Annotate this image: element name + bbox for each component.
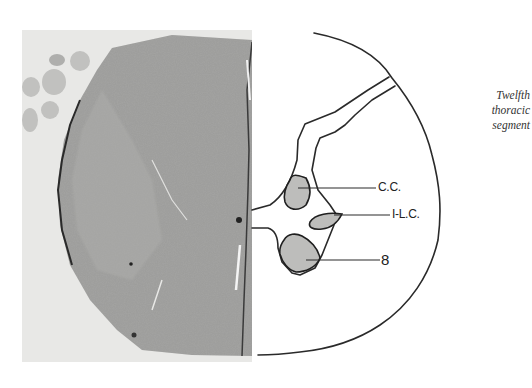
spinal-cord-diagram (250, 0, 460, 388)
label-8: 8 (381, 252, 389, 267)
spinal-cord-photomicrograph (22, 30, 252, 362)
label-ilc: I-L.C. (392, 208, 420, 220)
ilc-nucleus (310, 213, 343, 229)
caption-line: Twelfth (462, 88, 530, 103)
cc-nucleus (284, 175, 309, 209)
label-cc: C.C. (378, 181, 401, 193)
caption-line: thoracic (462, 103, 530, 118)
nucleus-8 (280, 234, 320, 272)
figure-caption: Twelfth thoracic segment (462, 88, 530, 133)
caption-line: segment (462, 118, 530, 133)
